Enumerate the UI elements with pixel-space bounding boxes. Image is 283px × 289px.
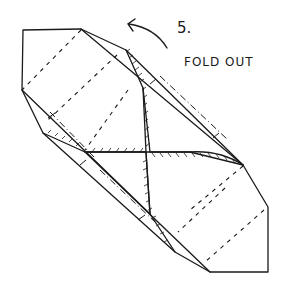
instruction-label: FOLD OUT (184, 55, 254, 69)
center-vertical-edge (143, 88, 150, 214)
step-number: 5. (177, 19, 191, 37)
hatch-shading (48, 49, 235, 242)
mountain-fold-lines (50, 76, 228, 222)
origami-step-diagram: 5. FOLD OUT (0, 0, 283, 289)
flap-edge (81, 29, 243, 165)
fold-out-arrow-icon (128, 19, 167, 48)
center-horizontal-edge (85, 152, 243, 165)
